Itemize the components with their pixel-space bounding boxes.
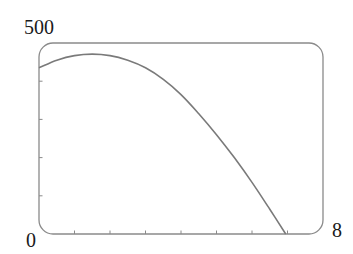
data-curve	[39, 54, 286, 234]
plot-frame	[39, 43, 323, 234]
plot-area	[0, 0, 353, 254]
